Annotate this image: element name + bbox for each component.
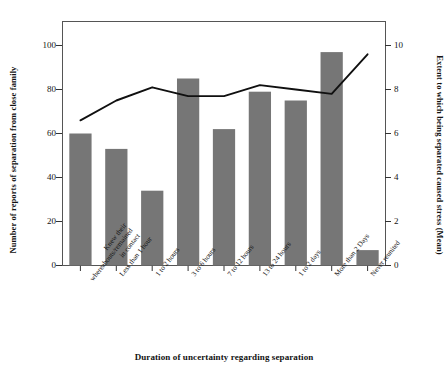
y-tick-right-10: 10 xyxy=(394,40,420,50)
bar xyxy=(177,79,199,266)
y-tick-left-60: 60 xyxy=(30,128,56,138)
y-tick-left-100: 100 xyxy=(30,40,56,50)
x-axis-title: Duration of uncertainty regarding separa… xyxy=(62,352,386,362)
chart-container: Number of reports of separation from clo… xyxy=(0,0,445,379)
bar xyxy=(69,134,91,266)
y-tick-right-2: 2 xyxy=(394,216,420,226)
bar xyxy=(249,92,271,266)
plot-area xyxy=(0,0,445,379)
y-tick-right-4: 4 xyxy=(394,172,420,182)
y-axis-left-ticks xyxy=(56,46,62,266)
y-axis-left-title: Number of reports of separation from clo… xyxy=(8,55,18,265)
y-tick-left-20: 20 xyxy=(30,216,56,226)
y-tick-right-6: 6 xyxy=(394,128,420,138)
y-tick-left-80: 80 xyxy=(30,84,56,94)
bar xyxy=(213,129,235,265)
y-tick-left-40: 40 xyxy=(30,172,56,182)
y-axis-right-title: Extent to which being separated caused s… xyxy=(435,45,445,265)
y-tick-right-8: 8 xyxy=(394,84,420,94)
y-tick-left-0: 0 xyxy=(30,260,56,270)
bar xyxy=(141,191,163,266)
y-tick-right-0: 0 xyxy=(394,260,420,270)
